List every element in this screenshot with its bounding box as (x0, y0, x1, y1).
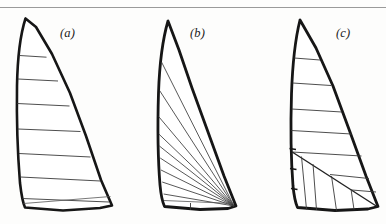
sail-cut-figure: (a) (b) (c) (0, 0, 386, 224)
sail-label-c: (c) (336, 26, 350, 41)
sail-label-b: (b) (190, 26, 205, 41)
sail-label-a: (a) (60, 26, 75, 41)
